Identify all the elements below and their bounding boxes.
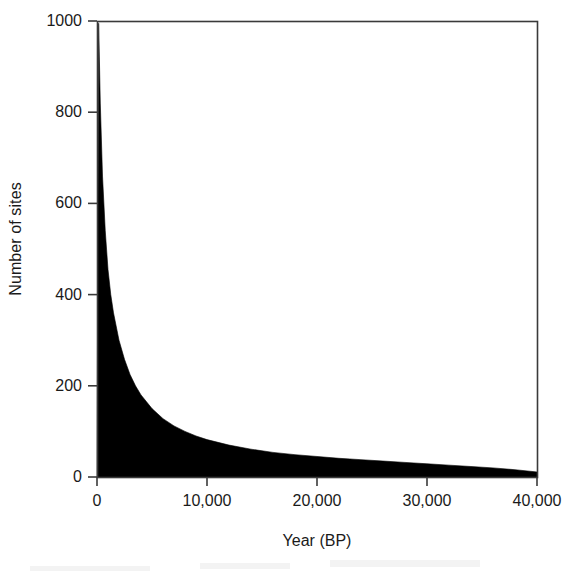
x-axis-tick-labels: 010,00020,00030,00040,000: [0, 492, 565, 518]
x-axis-tick-label: 0: [93, 492, 102, 510]
x-axis-tick-label: 20,000: [293, 492, 342, 510]
x-axis-title: Year (BP): [97, 532, 537, 550]
x-axis-tick-label: 30,000: [403, 492, 452, 510]
figure: Number of sites 02004006008001000 010,00…: [0, 0, 565, 576]
x-axis-tick-label: 10,000: [183, 492, 232, 510]
x-axis-tick-label: 40,000: [513, 492, 562, 510]
data-area-series: [97, 23, 537, 477]
plot-frame: [98, 22, 538, 478]
plot-area: [0, 0, 565, 576]
